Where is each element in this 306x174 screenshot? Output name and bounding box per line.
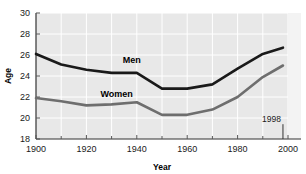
y-axis-tick-labels: 18202224262830	[20, 8, 30, 144]
x-tick-label: 1920	[76, 144, 96, 154]
y-tick-label: 18	[20, 134, 30, 144]
x-tick-label: 2000	[278, 144, 298, 154]
line-chart: 18202224262830 190019201940196019802000 …	[0, 0, 306, 174]
final-year-label: 1998	[262, 114, 281, 124]
y-tick-label: 26	[20, 50, 30, 60]
y-tick-label: 22	[20, 92, 30, 102]
y-tick-label: 28	[20, 29, 30, 39]
y-tick-label: 24	[20, 71, 30, 81]
y-axis-title: Age	[3, 68, 13, 84]
series-label-women: Women	[100, 89, 132, 99]
x-tick-label: 1900	[26, 144, 46, 154]
x-axis-title: Year	[153, 162, 172, 172]
x-axis-tick-labels: 190019201940196019802000	[26, 144, 298, 154]
x-tick-label: 1940	[127, 144, 147, 154]
series-label-men: Men	[123, 55, 141, 65]
x-tick-label: 1980	[228, 144, 248, 154]
y-tick-label: 30	[20, 8, 30, 18]
y-tick-label: 20	[20, 113, 30, 123]
right-margin-band	[288, 13, 301, 139]
x-tick-label: 1960	[177, 144, 197, 154]
chart-container: 18202224262830 190019201940196019802000 …	[0, 0, 306, 174]
